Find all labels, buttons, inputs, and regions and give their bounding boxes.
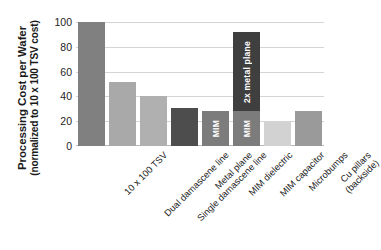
bar-segment [140,96,167,146]
bar[interactable] [295,111,322,146]
bar[interactable]: MIM [202,111,229,146]
bar-series: MIM2x metal planeMIM [76,22,324,146]
y-tick-0: 0 [66,140,72,152]
y-tick-100: 100 [54,16,72,28]
x-tick-label-0: 10 x 100 TSV [122,150,169,197]
plot-area: MIM2x metal planeMIM [76,22,324,146]
bar-segment [78,22,105,146]
x-axis-tick-labels: 10 x 100 TSVDual damascene lineSingle da… [76,150,324,248]
bar[interactable] [78,22,105,146]
bar-segment: 2x metal plane [233,32,260,111]
y-axis-title: Processing Cost per Wafer (normalized to… [8,18,48,178]
y-axis-title-line1: Processing Cost per Wafer [16,26,29,170]
bar-segment [109,82,136,146]
bar-slot [78,22,105,146]
y-tick-20: 20 [60,115,72,127]
bar[interactable]: 2x metal planeMIM [233,32,260,146]
bar-segment [264,122,291,146]
bar-segment-label: 2x metal plane [242,41,252,103]
bar[interactable] [140,96,167,146]
y-tick-60: 60 [60,66,72,78]
bar-slot: MIM [202,22,229,146]
y-axis-title-line2: (normalized to 10 x 100 TSV cost) [29,20,40,175]
bar-slot: 2x metal planeMIM [233,22,260,146]
bar[interactable] [264,122,291,146]
bar-slot [264,22,291,146]
bar-segment [171,108,198,146]
y-tick-80: 80 [60,41,72,53]
bar-segment [295,111,322,146]
bar-slot [171,22,198,146]
bar[interactable] [109,82,136,146]
bar[interactable] [171,108,198,146]
bar-segment: MIM [202,111,229,146]
y-tick-40: 40 [60,90,72,102]
x-tick-label-line: 10 x 100 TSV [122,150,169,197]
bar-segment-label: MIM [242,120,252,137]
bar-slot [109,22,136,146]
bar-segment-label: MIM [211,120,221,137]
bar-slot [140,22,167,146]
y-axis-tick-labels: 100806040200 [46,22,72,146]
bar-slot [295,22,322,146]
bar-segment: MIM [233,111,260,146]
